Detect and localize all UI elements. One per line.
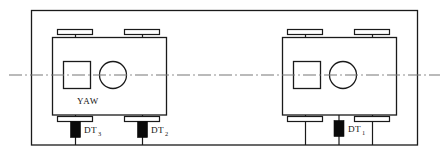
wheel-rear-left <box>288 117 323 122</box>
wheel-front-right <box>355 30 390 35</box>
sensor-dt2: DT 2 <box>138 122 169 138</box>
sensor-label-dt2-subscript: 2 <box>165 130 168 137</box>
sensor-label-dt1: DT <box>348 124 361 134</box>
schematic-diagram: YAW DT 3 DT 2 <box>0 0 446 158</box>
wheel-rear-right <box>355 117 390 122</box>
yaw-label: YAW <box>77 96 99 106</box>
sensor-label-dt1-subscript: 1 <box>362 129 365 136</box>
sensor-block-dt3 <box>71 122 81 138</box>
wheel-rear-right <box>125 117 160 122</box>
diagram-root: YAW DT 3 DT 2 <box>0 0 446 158</box>
sensor-label-dt3-subscript: 3 <box>98 130 101 137</box>
sensor-block-dt2 <box>138 122 148 138</box>
wheel-rear-left <box>58 117 93 122</box>
sensor-label-dt3: DT <box>84 125 97 135</box>
sensor-dt1: DT 1 <box>334 121 365 137</box>
left-bogie: YAW <box>53 30 167 146</box>
wheel-front-left <box>288 30 323 35</box>
sensor-label-dt2: DT <box>151 125 164 135</box>
wheel-front-left <box>58 30 93 35</box>
wheel-front-right <box>125 30 160 35</box>
sensor-block-dt1 <box>334 121 344 137</box>
sensor-dt3: DT 3 <box>71 122 102 138</box>
